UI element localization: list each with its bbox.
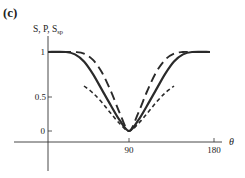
- chart: (c) S, P, Ssp 1 0.5 0 90 180 θ: [0, 0, 245, 178]
- series-s-sp-line: [84, 86, 174, 131]
- series-s-line: [48, 52, 210, 131]
- x-ticks: 90 180: [125, 138, 222, 155]
- panel-label: (c): [3, 5, 17, 20]
- y-axis-label: S, P, Ssp: [33, 24, 63, 35]
- x-tick-90: 90: [125, 145, 135, 155]
- y-tick-1: 1: [41, 47, 46, 57]
- y-tick-0.5: 0.5: [35, 92, 47, 102]
- x-axis-label: θ: [229, 136, 234, 147]
- series-p-line: [48, 52, 210, 131]
- y-tick-0: 0: [41, 126, 46, 136]
- y-ticks: 1 0.5 0: [35, 47, 52, 136]
- series-group: [48, 52, 210, 131]
- x-tick-180: 180: [207, 145, 221, 155]
